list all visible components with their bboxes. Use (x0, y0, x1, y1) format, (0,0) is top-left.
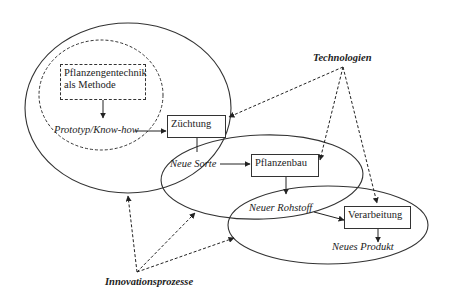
dashed-arrow-innovation-ellipse2 (137, 213, 195, 272)
node-gentechnik-line2: als Methode (64, 79, 142, 91)
node-neue-sorte-label: Neue Sorte (170, 159, 216, 170)
dashed-arrow-technologien-verarbeitung (343, 67, 377, 203)
arrow-rohstoff-verarbeitung (314, 212, 344, 220)
node-prototyp-label: Prototyp/Know-how (54, 125, 139, 136)
node-neuer-rohstoff-label: Neuer Rohstoff (249, 203, 312, 214)
diagram-canvas (0, 0, 452, 301)
node-pflanzenbau-box: Pflanzenbau (251, 154, 319, 177)
dashed-arrow-innovation-ellipse1 (128, 196, 137, 272)
source-technologien-label: Technologien (313, 53, 372, 64)
dashed-arrow-innovation-ellipse3 (137, 238, 234, 272)
dashed-arrow-technologien-pflanzenbau (320, 67, 343, 160)
node-zuechtung-box: Züchtung (167, 115, 226, 138)
dashed-arrow-technologien-zuechtung (229, 67, 343, 117)
node-neues-produkt-label: Neues Produkt (332, 242, 394, 253)
source-innovationsprozesse-label: Innovationsprozesse (105, 277, 193, 288)
node-verarbeitung-box: Verarbeitung (344, 206, 411, 229)
node-gentechnik-line1: Pflanzengentechnik (64, 67, 142, 79)
node-gentechnik-box: Pflanzengentechnik als Methode (60, 64, 146, 100)
